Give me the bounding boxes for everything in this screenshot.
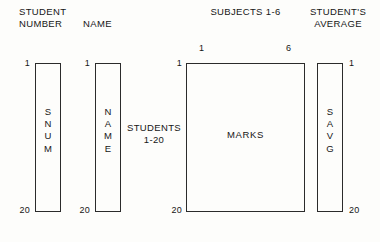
name-letter-4: E — [105, 143, 112, 155]
marks-row-start-index: 1 — [168, 58, 182, 68]
snum-letter-1: S — [45, 106, 52, 118]
savg-row-start-index: 1 — [349, 58, 354, 68]
header-name: NAME — [83, 18, 112, 30]
savg-letter-1: S — [327, 106, 334, 118]
snum-letter-3: U — [44, 130, 51, 142]
marks-caption: MARKS — [187, 129, 304, 140]
savg-letter-3: V — [327, 130, 334, 142]
marks-column-index-last: 6 — [286, 43, 291, 53]
header-subjects: SUBJECTS 1-6 — [186, 6, 305, 18]
name-letter-1: N — [104, 106, 111, 118]
snum-row-start-index: 1 — [12, 58, 30, 68]
array-structure-diagram: STUDENT NUMBER NAME SUBJECTS 1-6 STUDENT… — [0, 0, 380, 242]
snum-letter-4: M — [44, 143, 52, 155]
name-array-box: N A M E — [95, 63, 121, 212]
marks-array-box: MARKS — [186, 63, 305, 212]
name-letter-2: A — [105, 118, 112, 130]
header-student-number: STUDENT NUMBER — [19, 6, 66, 30]
marks-column-index-first: 1 — [199, 43, 204, 53]
savg-caption: S A V G — [318, 106, 342, 155]
name-row-start-index: 1 — [72, 58, 90, 68]
snum-letter-2: N — [44, 118, 51, 130]
snum-caption: S N U M — [36, 106, 60, 155]
savg-row-end-index: 20 — [349, 205, 359, 215]
header-students-average: STUDENT'S AVERAGE — [296, 6, 380, 30]
name-caption: N A M E — [96, 106, 120, 155]
savg-letter-2: A — [327, 118, 334, 130]
students-range-label: STUDENTS 1-20 — [126, 122, 182, 146]
savg-array-box: S A V G — [317, 63, 343, 212]
snum-row-end-index: 20 — [8, 205, 30, 215]
name-letter-3: M — [104, 130, 112, 142]
marks-row-end-index: 20 — [163, 205, 182, 215]
savg-letter-4: G — [326, 143, 334, 155]
name-row-end-index: 20 — [68, 205, 90, 215]
snum-array-box: S N U M — [35, 63, 61, 212]
